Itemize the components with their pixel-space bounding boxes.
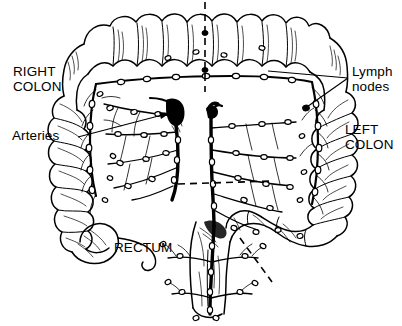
superior-mesenteric-artery	[104, 98, 185, 200]
transverse-colon	[84, 14, 330, 74]
label-rectum: RECTUM	[114, 240, 172, 255]
label-left-colon: LEFT COLON	[345, 122, 394, 152]
rectum-oblique-dash	[240, 238, 272, 282]
label-arteries: Arteries	[12, 128, 59, 143]
colon-anatomy-figure: RIGHT COLON LEFT COLON Lymph nodes Arter…	[0, 0, 402, 326]
label-right-colon: RIGHT COLON	[13, 64, 62, 94]
lymph-node-chain	[86, 31, 322, 322]
anatomy-illustration	[0, 0, 402, 326]
hepatic-flexure	[63, 44, 89, 110]
descending-colon	[308, 92, 358, 236]
label-lymph-nodes: Lymph nodes	[352, 64, 393, 94]
